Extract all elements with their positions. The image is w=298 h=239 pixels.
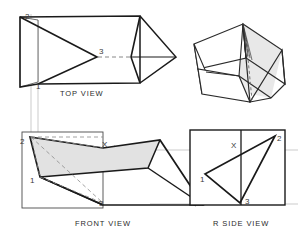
front-view-label-1: 1 (30, 176, 34, 185)
top-view-label-1: 1 (36, 82, 40, 91)
front-view-group (22, 132, 203, 208)
right-side-view-group (190, 130, 285, 205)
rside-view-label-2: 2 (277, 134, 281, 143)
rside-view-label-x: X (231, 141, 236, 150)
top-view-label-3: 3 (99, 47, 103, 56)
top-view-right-inner-fold (131, 16, 140, 83)
top-view-right-flap (140, 16, 176, 83)
caption-top-view: TOP VIEW (60, 89, 104, 98)
caption-front-view: FRONT VIEW (75, 219, 131, 228)
front-view-label-x: X (102, 140, 107, 149)
top-view-group (20, 16, 176, 87)
rside-view-label-3: 3 (245, 197, 249, 206)
front-view-label-2: 2 (20, 137, 24, 146)
front-view-label-3: 3 (99, 199, 103, 208)
rside-view-label-1: 1 (200, 175, 204, 184)
top-view-left-panel (20, 17, 38, 87)
technical-drawing-page: TOP VIEW FRONT VIEW R SIDE VIEW 2 1 3 2 … (0, 0, 298, 239)
pictorial-isometric-view (186, 6, 296, 111)
rside-view-reference-box (190, 130, 285, 205)
caption-right-side-view: R SIDE VIEW (213, 219, 269, 228)
top-view-label-2: 2 (25, 12, 29, 21)
